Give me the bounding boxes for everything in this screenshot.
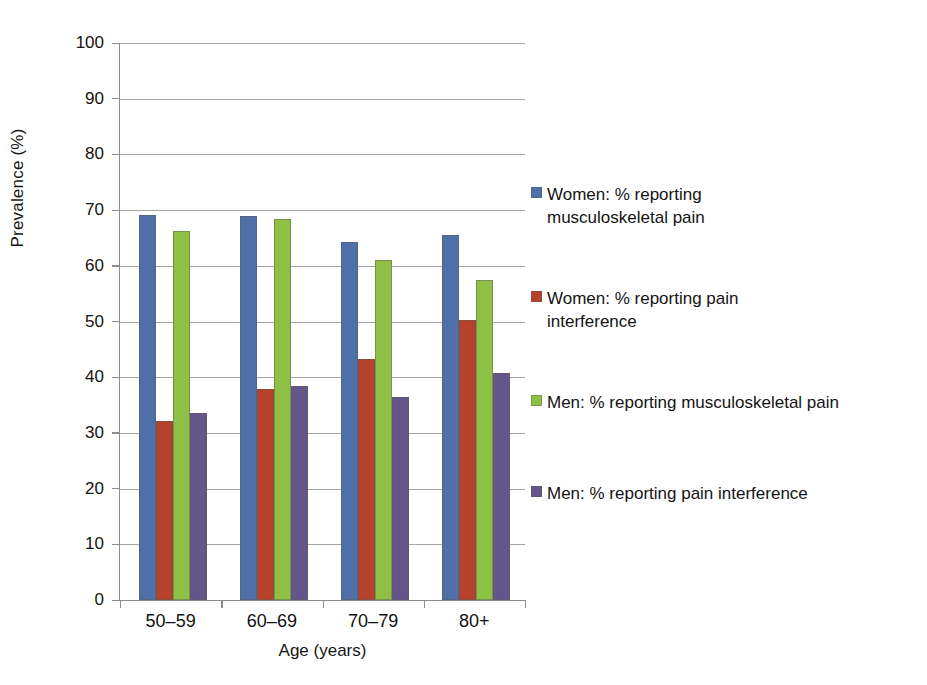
bar <box>476 280 493 600</box>
y-tick-label: 100 <box>60 34 104 51</box>
legend-label: Men: % reporting pain interference <box>547 482 808 505</box>
bar <box>459 320 476 600</box>
y-tick-label-wrap: 90 <box>58 90 104 107</box>
y-tick-label-wrap: 40 <box>58 368 104 385</box>
y-tick-label: 20 <box>60 480 104 497</box>
y-tick-label-wrap: 10 <box>58 535 104 552</box>
y-tick-label-wrap: 30 <box>58 424 104 441</box>
legend-label: Women: % reporting musculoskeletal pain <box>547 183 781 229</box>
x-axis-title: Age (years) <box>120 641 525 661</box>
x-tick-mark <box>424 600 425 608</box>
legend-item[interactable]: Women: % reporting musculoskeletal pain <box>531 183 781 229</box>
legend-swatch-icon <box>531 395 542 406</box>
y-tick-label: 70 <box>60 201 104 218</box>
legend-label: Men: % reporting musculoskeletal pain <box>547 391 839 414</box>
legend-item[interactable]: Women: % reporting pain interference <box>531 287 781 333</box>
y-tick-label-wrap: 60 <box>58 257 104 274</box>
bar <box>392 397 409 600</box>
legend-label: Women: % reporting pain interference <box>547 287 781 333</box>
bar <box>257 389 274 600</box>
y-tick-label: 50 <box>60 313 104 330</box>
bar <box>375 260 392 600</box>
y-tick-label: 60 <box>60 257 104 274</box>
y-tick-label: 10 <box>60 535 104 552</box>
bar <box>156 421 173 600</box>
legend-swatch-icon <box>531 486 542 497</box>
y-tick-label: 90 <box>60 90 104 107</box>
bar <box>139 215 156 600</box>
y-tick-label: 0 <box>60 591 104 608</box>
bar <box>274 219 291 600</box>
bar <box>291 386 308 600</box>
bar <box>341 242 358 600</box>
bar <box>442 235 459 600</box>
x-tick-mark <box>221 600 222 608</box>
bar-chart-figure: Prevalence (%) 1009080706050403020100 50… <box>0 0 927 685</box>
x-tick-label: 80+ <box>414 611 534 632</box>
bar <box>493 373 510 600</box>
bar <box>240 216 257 600</box>
y-tick-label-wrap: 20 <box>58 480 104 497</box>
bar <box>173 231 190 600</box>
y-tick-label-wrap: 80 <box>58 145 104 162</box>
y-tick-label-wrap: 100 <box>58 34 104 51</box>
bar <box>190 413 207 600</box>
y-axis-title: Prevalence (%) <box>8 98 36 278</box>
y-tick-label: 40 <box>60 368 104 385</box>
legend-swatch-icon <box>531 291 542 302</box>
bar <box>358 359 375 600</box>
y-tick-label-wrap: 70 <box>58 201 104 218</box>
y-tick-label-wrap: 50 <box>58 313 104 330</box>
y-tick-label: 30 <box>60 424 104 441</box>
legend-item[interactable]: Men: % reporting musculoskeletal pain <box>531 391 891 414</box>
y-tick-label: 80 <box>60 145 104 162</box>
bars-container <box>120 43 525 600</box>
x-tick-mark <box>120 600 121 608</box>
legend-item[interactable]: Men: % reporting pain interference <box>531 482 921 505</box>
legend-swatch-icon <box>531 187 542 198</box>
y-tick-label-wrap: 0 <box>58 591 104 608</box>
x-tick-mark <box>323 600 324 608</box>
x-tick-mark <box>525 600 526 608</box>
